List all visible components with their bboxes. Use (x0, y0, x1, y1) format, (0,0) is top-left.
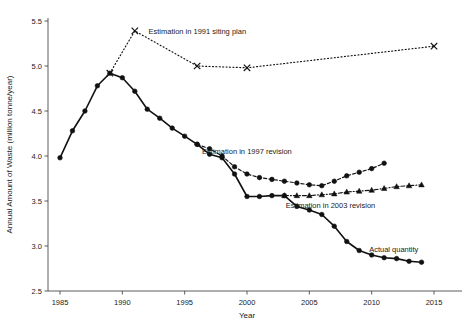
y-tick-label: 3.0 (32, 242, 42, 251)
data-point-circle (245, 194, 250, 199)
data-series (58, 28, 438, 265)
series-label-2: Estimation in 1991 siting plan (149, 27, 247, 36)
series-line (284, 185, 421, 196)
series-label-1: Actual quantity (369, 245, 418, 254)
data-point-circle (83, 109, 88, 114)
data-point-cross (244, 65, 250, 71)
y-tick-label: 2.5 (32, 287, 42, 296)
line-chart: 2.53.03.54.04.55.05.51985199019952000200… (0, 0, 468, 330)
data-point-circle (232, 165, 237, 170)
data-point-circle (394, 256, 399, 261)
data-point-circle (232, 172, 237, 177)
data-point-circle (133, 89, 138, 94)
x-tick-label: 2005 (301, 298, 318, 307)
data-point-circle (257, 194, 262, 199)
data-point-circle (320, 212, 325, 217)
data-point-circle (344, 239, 349, 244)
chart-container: 2.53.03.54.04.55.05.51985199019952000200… (0, 0, 468, 330)
y-tick-label: 5.0 (32, 62, 42, 71)
data-point-circle (382, 161, 387, 166)
series-label-4: Estimation in 2003 revision (286, 201, 376, 210)
x-tick-label: 2000 (239, 298, 256, 307)
data-point-circle (170, 126, 175, 131)
series-line (110, 31, 434, 73)
data-point-circle (369, 166, 374, 171)
data-point-circle (357, 248, 362, 253)
data-point-circle (295, 181, 300, 186)
data-point-circle (257, 175, 262, 180)
data-point-circle (145, 107, 150, 112)
x-tick-label: 1985 (52, 298, 69, 307)
data-point-circle (95, 84, 100, 89)
data-point-circle (307, 183, 312, 188)
data-point-circle (382, 255, 387, 260)
data-point-circle (357, 170, 362, 175)
data-point-circle (195, 142, 200, 147)
data-point-circle (332, 179, 337, 184)
x-tick-label: 1990 (114, 298, 131, 307)
series-label-3: Estimation in 1997 revision (202, 147, 292, 156)
x-tick-label: 2010 (363, 298, 380, 307)
data-point-circle (320, 183, 325, 188)
series-annotations: Actual quantityEstimation in 1991 siting… (149, 27, 419, 255)
data-point-circle (120, 75, 125, 80)
data-point-circle (182, 134, 187, 139)
data-point-cross (132, 28, 138, 34)
data-point-circle (344, 174, 349, 179)
data-point-circle (245, 172, 250, 177)
data-point-circle (157, 116, 162, 121)
y-tick-label: 5.5 (32, 17, 42, 26)
y-tick-label: 3.5 (32, 197, 42, 206)
data-point-circle (282, 179, 287, 184)
x-axis-title: Year (239, 311, 256, 320)
data-point-circle (270, 193, 275, 198)
x-tick-label: 2015 (426, 298, 443, 307)
data-point-circle (332, 224, 337, 229)
series-1 (58, 71, 424, 265)
data-point-circle (70, 129, 75, 134)
data-point-circle (419, 260, 424, 265)
data-point-circle (58, 156, 63, 161)
data-point-circle (270, 177, 275, 182)
y-tick-label: 4.0 (32, 152, 42, 161)
y-tick-label: 4.5 (32, 107, 42, 116)
y-axis-title: Annual Amount of Waste (million tonne/ye… (5, 75, 14, 233)
data-point-circle (407, 259, 412, 264)
series-line (60, 73, 422, 262)
x-tick-label: 1995 (176, 298, 193, 307)
